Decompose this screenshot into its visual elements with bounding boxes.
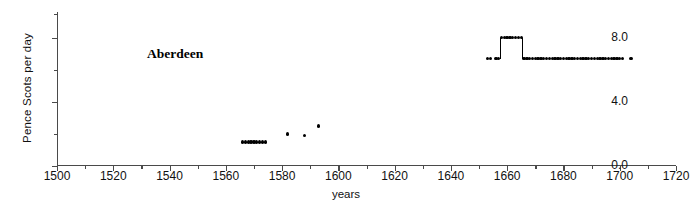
x-axis-minor-tick xyxy=(423,166,424,169)
x-tick-label: 1660 xyxy=(485,170,529,182)
y-axis-tick xyxy=(52,38,57,39)
x-axis-minor-tick xyxy=(479,166,480,169)
y-tick-label: 8.0 xyxy=(588,31,628,43)
data-point xyxy=(489,57,492,60)
x-axis-minor-tick xyxy=(648,166,649,169)
x-tick-label: 1680 xyxy=(541,170,585,182)
data-point xyxy=(264,140,267,143)
chart-figure: Pence Scots per day years 0.04.08.0 1500… xyxy=(0,0,692,209)
plot-area xyxy=(57,12,676,166)
data-point xyxy=(317,124,320,127)
y-axis-minor-tick xyxy=(54,134,57,135)
x-tick-label: 1700 xyxy=(598,170,642,182)
y-axis-minor-tick xyxy=(54,70,57,71)
data-point xyxy=(303,134,306,137)
x-axis-minor-tick xyxy=(198,166,199,169)
x-tick-label: 1540 xyxy=(148,170,192,182)
x-tick-label: 1520 xyxy=(91,170,135,182)
y-axis-tick xyxy=(52,102,57,103)
y-axis-label: Pence Scots per day xyxy=(21,13,33,163)
x-axis-label: years xyxy=(0,188,692,200)
y-axis-spine xyxy=(57,12,58,166)
x-axis-minor-tick xyxy=(535,166,536,169)
x-axis-minor-tick xyxy=(141,166,142,169)
data-point xyxy=(286,132,289,135)
data-point xyxy=(629,57,632,60)
x-axis-minor-tick xyxy=(85,166,86,169)
x-axis-minor-tick xyxy=(254,166,255,169)
y-tick-label: 4.0 xyxy=(588,95,628,107)
x-tick-label: 1620 xyxy=(373,170,417,182)
x-tick-label: 1500 xyxy=(35,170,79,182)
step-connector xyxy=(522,38,524,59)
step-connector xyxy=(500,38,502,59)
x-axis-minor-tick xyxy=(367,166,368,169)
panel-title: Aberdeen xyxy=(147,46,203,62)
x-tick-label: 1580 xyxy=(260,170,304,182)
x-tick-label: 1560 xyxy=(204,170,248,182)
x-tick-label: 1640 xyxy=(429,170,473,182)
x-tick-label: 1600 xyxy=(316,170,360,182)
x-tick-label: 1720 xyxy=(654,170,692,182)
data-point xyxy=(621,57,624,60)
y-axis-minor-tick xyxy=(54,14,57,15)
x-axis-minor-tick xyxy=(310,166,311,169)
